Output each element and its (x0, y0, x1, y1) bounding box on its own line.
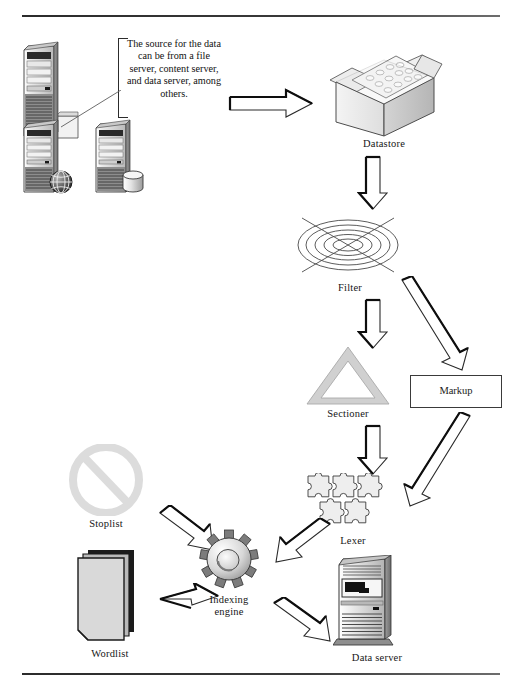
sectioner-label: Sectioner (298, 408, 398, 420)
stoplist-label: Stoplist (60, 518, 152, 530)
diagram-canvas: The source for the data can be from a fi… (0, 0, 519, 695)
tower-server-icon (333, 555, 409, 649)
concentric-ellipse-filter-icon (292, 212, 404, 282)
arrow-sectioner-to-lexer (357, 424, 389, 476)
data-server-label: Data server (325, 652, 429, 664)
document-stack-icon (68, 548, 154, 646)
triangle-outline-icon (303, 345, 393, 407)
server-with-globe-icon (24, 120, 72, 193)
callout-text: The source for the data can be from a fi… (124, 38, 224, 100)
gear-icon (198, 528, 260, 590)
callout: The source for the data can be from a fi… (118, 38, 224, 116)
filter-label: Filter (294, 282, 406, 294)
arrow-datastore-to-filter (357, 155, 389, 211)
wordlist-label: Wordlist (58, 648, 162, 660)
lower-servers-group (20, 118, 170, 198)
top-horizontal-rule (22, 15, 500, 17)
callout-leader-line (60, 90, 122, 128)
open-box-icon (322, 42, 446, 138)
arrow-filter-to-sectioner (357, 298, 389, 350)
datastore-label: Datastore (324, 138, 444, 150)
arrow-markup-to-lexer (398, 412, 474, 510)
markup-label: Markup (410, 385, 502, 396)
arrow-filter-to-markup (398, 276, 478, 372)
arrow-lexer-to-engine (272, 518, 332, 564)
indexing-engine-label-line2: engine (190, 606, 268, 618)
arrow-servers-to-datastore (228, 88, 314, 120)
server-with-database-icon (96, 120, 143, 192)
prohibition-sign-icon (68, 444, 144, 516)
arrow-engine-to-data-server (272, 597, 336, 643)
bottom-horizontal-rule (22, 673, 500, 675)
indexing-engine-label-line1: Indexing (190, 594, 268, 606)
